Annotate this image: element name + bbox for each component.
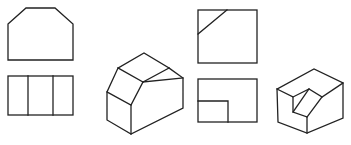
front-view-notched-block xyxy=(198,79,257,122)
isometric-chamfered-prism xyxy=(107,53,183,134)
isometric-notched-block xyxy=(277,69,343,133)
top-view-three-panels xyxy=(8,76,73,115)
technical-drawing xyxy=(0,0,351,145)
top-view-diagonal-cut xyxy=(198,10,257,63)
front-view-chamfered-prism xyxy=(8,8,73,60)
